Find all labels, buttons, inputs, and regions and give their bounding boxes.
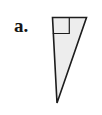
figure-container: a. <box>0 0 102 115</box>
right-triangle-diagram <box>0 0 102 115</box>
